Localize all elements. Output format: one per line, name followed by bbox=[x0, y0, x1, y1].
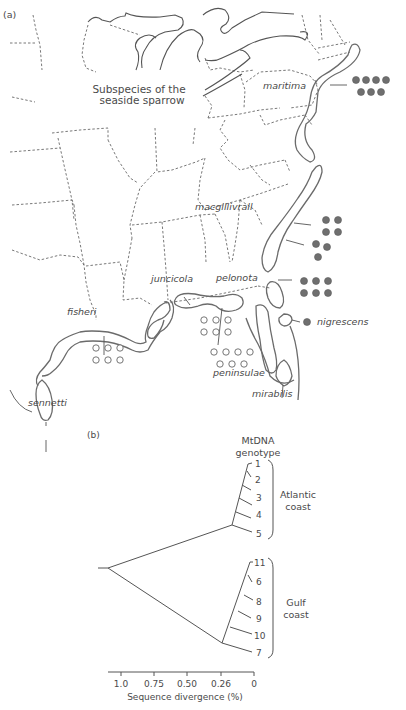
tick-1-0: 1.0 bbox=[114, 679, 129, 689]
atlantic-bracket bbox=[268, 460, 273, 539]
gulf-label-line1: Gulf bbox=[286, 597, 306, 608]
label-maritima: maritima bbox=[263, 80, 306, 91]
map-title-line2: seaside sparrow bbox=[99, 94, 184, 106]
label-peninsulae: peninsulae bbox=[212, 367, 265, 378]
gulf-tips: 11 6 8 9 10 7 bbox=[254, 558, 266, 658]
atlantic-coast-range bbox=[262, 44, 360, 400]
tick-0-50: 0.50 bbox=[177, 679, 197, 689]
tip-7: 7 bbox=[256, 648, 262, 658]
axis-label: Sequence divergence (%) bbox=[127, 692, 243, 702]
panel-b-label: (b) bbox=[87, 430, 100, 440]
tip-8: 8 bbox=[256, 597, 262, 607]
tip-5: 5 bbox=[256, 529, 262, 539]
tip-2: 2 bbox=[255, 475, 261, 485]
atlantic-label-line1: Atlantic bbox=[280, 489, 316, 500]
label-sennetti: sennetti bbox=[28, 397, 67, 408]
gulf-bracket bbox=[268, 558, 273, 658]
tip-1: 1 bbox=[255, 459, 261, 469]
tree-header-line2: genotype bbox=[236, 447, 281, 458]
gulf-label-line2: coast bbox=[283, 609, 309, 620]
juncicola-markers bbox=[201, 317, 231, 335]
macgillivraii-markers bbox=[313, 217, 342, 261]
tip-6: 6 bbox=[256, 577, 262, 587]
label-macgillivraii: macgillivrall bbox=[195, 201, 253, 212]
divergence-axis: 1.0 0.75 0.50 0.26 0 Sequence divergence… bbox=[108, 672, 257, 702]
tip-4: 4 bbox=[256, 510, 262, 520]
tip-9: 9 bbox=[256, 614, 262, 624]
label-nigrescens: nigrescens bbox=[317, 316, 368, 327]
peninsulae-markers bbox=[211, 349, 253, 367]
seaside-sparrow-figure: (a) Subspecies of the seaside sparrow ma… bbox=[0, 0, 406, 710]
maritima-markers bbox=[353, 77, 390, 96]
tick-0-75: 0.75 bbox=[144, 679, 164, 689]
panel-b-tree: (b) MtDNA genotype 1 bbox=[87, 430, 316, 702]
label-juncicola: juncicola bbox=[149, 273, 193, 284]
panel-a-map: (a) Subspecies of the seaside sparrow ma… bbox=[3, 8, 390, 452]
tree-branches bbox=[98, 463, 253, 652]
tip-3: 3 bbox=[256, 493, 262, 503]
pelonota-markers bbox=[301, 278, 332, 297]
atlantic-label-line2: coast bbox=[285, 501, 311, 512]
atlantic-tips: 1 2 3 4 5 bbox=[255, 459, 262, 539]
label-fisheri: fisheri bbox=[67, 306, 97, 317]
label-pelonota: pelonota bbox=[215, 272, 258, 283]
nigrescens-marker bbox=[304, 319, 311, 326]
tip-11: 11 bbox=[254, 558, 265, 568]
label-mirabilis: mirabilis bbox=[252, 388, 293, 399]
fisheri-markers bbox=[93, 345, 123, 363]
tick-0-26: 0.26 bbox=[211, 679, 231, 689]
tick-0: 0 bbox=[251, 679, 257, 689]
tree-header-line1: MtDNA bbox=[242, 435, 275, 446]
tip-10: 10 bbox=[254, 631, 266, 641]
panel-a-label: (a) bbox=[3, 9, 16, 20]
